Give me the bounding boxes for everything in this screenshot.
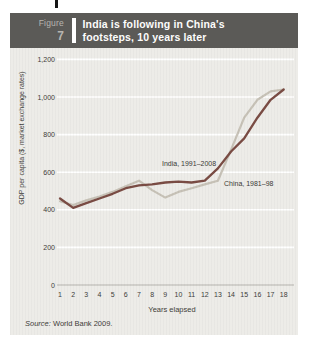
header-separator-bar xyxy=(72,18,76,43)
x-tick-label-16: 16 xyxy=(250,290,264,299)
china-series-line xyxy=(60,90,284,206)
x-tick-label-15: 15 xyxy=(237,290,251,299)
figure-panel: Figure 7 India is following in China's f… xyxy=(10,13,298,335)
series-label-india: India, 1991–2008 xyxy=(162,160,216,167)
page-crop-mark xyxy=(55,0,58,8)
x-tick-label-6: 6 xyxy=(119,290,133,299)
figure-title-line1: India is following in China's xyxy=(83,18,225,31)
x-tick-label-8: 8 xyxy=(145,290,159,299)
x-tick-label-7: 7 xyxy=(132,290,146,299)
y-axis-title: GDP per capita ($, market exchange rates… xyxy=(18,71,25,204)
x-tick-label-11: 11 xyxy=(185,290,199,299)
x-tick-label-9: 9 xyxy=(158,290,172,299)
figure-label-block: Figure 7 xyxy=(16,19,64,42)
series-label-china: China, 1981–98 xyxy=(224,180,273,187)
x-tick-label-4: 4 xyxy=(93,290,107,299)
x-tick-label-2: 2 xyxy=(66,290,80,299)
figure-word: Figure xyxy=(16,19,64,28)
figure-number: 7 xyxy=(16,30,64,42)
source-note: Source: World Bank 2009. xyxy=(25,319,112,328)
figure-header: Figure 7 India is following in China's f… xyxy=(10,13,298,48)
x-tick-label-18: 18 xyxy=(277,290,291,299)
x-tick-label-1: 1 xyxy=(53,290,67,299)
x-tick-label-5: 5 xyxy=(106,290,120,299)
x-tick-label-10: 10 xyxy=(171,290,185,299)
figure-title-line2: footsteps, 10 years later xyxy=(83,31,225,44)
x-tick-label-17: 17 xyxy=(264,290,278,299)
y-tick-label-200: 200 xyxy=(10,243,55,252)
y-tick-label-1200: 1,200 xyxy=(10,55,55,64)
india-series-line xyxy=(60,90,284,208)
source-prefix: Source: xyxy=(25,319,51,328)
x-tick-label-3: 3 xyxy=(79,290,93,299)
x-tick-label-13: 13 xyxy=(211,290,225,299)
source-text: World Bank 2009. xyxy=(53,319,112,328)
x-tick-label-12: 12 xyxy=(198,290,212,299)
figure-title: India is following in China's footsteps,… xyxy=(83,18,225,43)
y-tick-label-400: 400 xyxy=(10,205,55,214)
x-tick-label-14: 14 xyxy=(224,290,238,299)
y-tick-label-0: 0 xyxy=(10,281,55,290)
x-axis-title: Years elapsed xyxy=(132,305,212,314)
chart-area: 02004006008001,0001,200 1234567891011121… xyxy=(10,48,298,335)
